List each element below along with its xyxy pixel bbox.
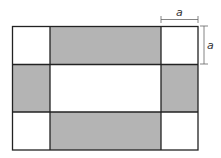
edge-left — [12, 64, 50, 112]
top-dimension-label: a — [176, 6, 183, 19]
edge-right — [161, 64, 198, 112]
grid-diagram: a a — [0, 0, 221, 158]
edge-bottom — [50, 112, 161, 150]
edge-top — [50, 26, 161, 64]
right-dimension-label: a — [207, 39, 214, 52]
